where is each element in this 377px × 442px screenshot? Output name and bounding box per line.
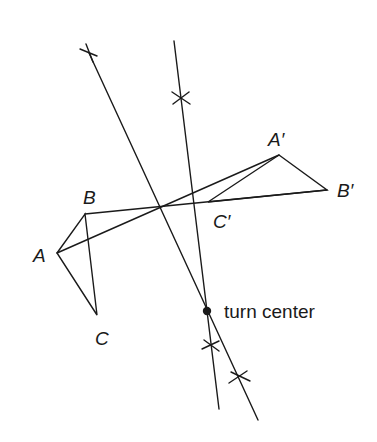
label-a-prime: A′ [267, 129, 286, 150]
rotation-diagram: A B C A′ B′ C′ turn center [0, 0, 377, 442]
turn-center-point [203, 307, 211, 315]
label-turn-center: turn center [224, 301, 315, 322]
arc-mark-1 [80, 44, 97, 62]
label-b: B [83, 187, 96, 208]
label-c-prime: C′ [213, 211, 232, 232]
label-b-prime: B′ [337, 180, 355, 201]
label-c: C [95, 328, 109, 349]
label-a: A [32, 245, 46, 266]
triangle-abc [57, 214, 97, 315]
segment-b-b-prime [85, 190, 327, 214]
perpendicular-bisector-1 [89, 53, 258, 420]
